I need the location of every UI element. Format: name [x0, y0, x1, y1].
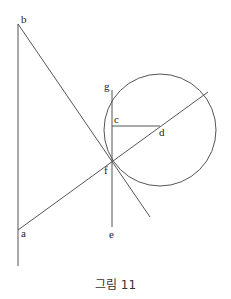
label-f: f	[104, 164, 108, 176]
label-a: a	[21, 227, 26, 239]
label-g: g	[104, 80, 110, 92]
line-b-f-tangent	[18, 24, 150, 217]
label-b: b	[21, 13, 27, 25]
label-c: c	[114, 113, 119, 125]
label-e: e	[109, 228, 114, 240]
label-d: d	[159, 126, 165, 138]
geometry-diagram: b g c d f a e	[0, 0, 231, 299]
figure-caption: 그림 11	[0, 275, 231, 292]
